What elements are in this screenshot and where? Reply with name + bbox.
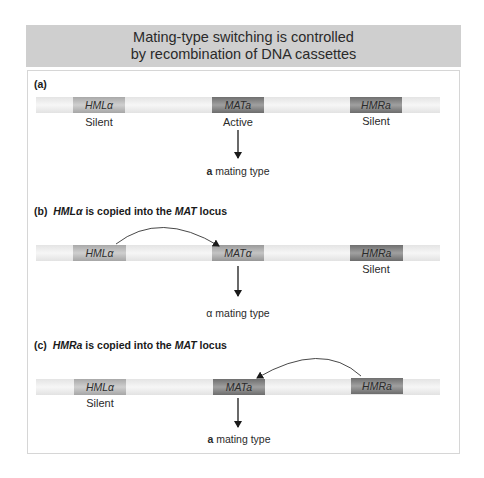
copy-arc-arrow-b xyxy=(116,227,219,246)
copy-arc-arrow-c xyxy=(257,358,361,378)
arrows-overlay xyxy=(0,0,484,478)
